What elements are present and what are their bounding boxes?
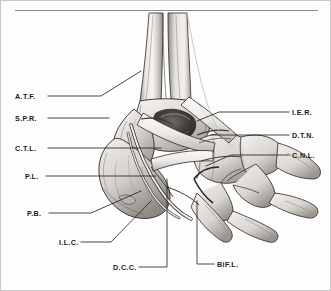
label-ier: I.E.R. [292,109,312,117]
leader-line-atf [48,71,141,96]
leader-line-bifl [197,201,214,264]
label-dcc: D.C.C. [113,264,137,272]
leader-line-ier [197,112,289,121]
leader-lines [1,1,331,291]
figure-page: A.T.F. S.P.R. C.T.L. P.L. P.B. I.E.R. D.… [0,0,331,291]
label-ctl: C.T.L. [15,145,36,153]
label-bifl: BiF.L. [217,261,238,269]
leader-line-ilc [81,201,151,242]
label-pb: P.B. [27,210,41,218]
label-pl: P.L. [25,173,39,181]
label-spr: S.P.R. [15,115,37,123]
label-dtn: D.T.N. [292,132,314,140]
label-cnl: C.N.L. [292,152,315,160]
leader-line-dcc [139,179,167,267]
leader-line-pb [49,191,141,213]
label-ilc: I.L.C. [59,239,79,247]
anatomy-figure: A.T.F. S.P.R. C.T.L. P.L. P.B. I.E.R. D.… [1,1,331,291]
leader-line-cnl [206,155,289,166]
label-atf: A.T.F. [15,93,35,101]
